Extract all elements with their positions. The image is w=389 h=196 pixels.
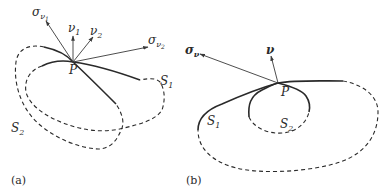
sigma-nu2-arrow (73, 47, 148, 62)
label-sigma-nu: σν (185, 44, 199, 58)
surface-s1-dashed (26, 66, 165, 131)
label-point-p-a: P (69, 64, 77, 76)
label-nu: ν (266, 44, 274, 56)
label-point-p-b: P (281, 86, 289, 98)
label-s2-b: S2 (280, 118, 293, 133)
surface-s1-solid (42, 61, 140, 80)
surface-s2-solid-b (249, 83, 310, 117)
label-s1-a: S1 (160, 75, 173, 90)
surface-contact-figure: σν1 ν1 ν2 σν2 P S1 S2 (a) σν ν P S1 S2 (… (0, 0, 389, 196)
label-sigma-nu2: σν2 (148, 34, 165, 50)
panel-a-curves (15, 46, 164, 149)
label-nu2: ν2 (90, 25, 102, 40)
label-s1-b: S1 (207, 115, 220, 130)
label-s2-a: S2 (11, 122, 24, 137)
caption-a: (a) (11, 175, 26, 186)
sigma-nu-arrow (200, 54, 278, 83)
label-sigma-nu1: σν1 (32, 6, 49, 22)
diagram-canvas (0, 0, 389, 196)
nu-arrow (271, 56, 278, 83)
panel-b-vectors (200, 54, 278, 83)
label-nu1: ν1 (68, 22, 80, 37)
caption-b: (b) (186, 175, 202, 186)
surface-s2-dashed-b (249, 112, 309, 133)
